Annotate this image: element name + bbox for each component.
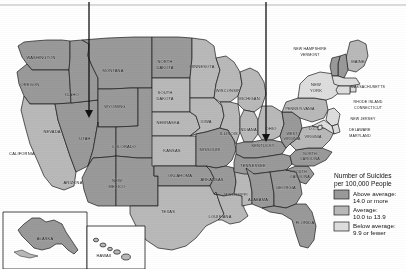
state-label-illinois: ILLINOIS	[220, 131, 238, 136]
state-label-maryland: MARYLAND	[349, 134, 371, 138]
state-label-kansas: KANSAS	[163, 148, 180, 153]
state-label-louisiana: LOUISIANA	[209, 214, 232, 219]
state-label-georgia: GEORGIA	[276, 185, 296, 190]
state-label-alaska: ALASKA	[37, 236, 54, 241]
state-label-carolina: CAROLINA	[300, 157, 320, 161]
state-label-west: WEST	[286, 132, 298, 136]
state-label-north: NORTH	[303, 152, 317, 156]
state-indiana[interactable]	[240, 110, 258, 142]
state-label-idaho: IDAHO	[65, 92, 79, 97]
state-label-montana: MONTANA	[103, 68, 124, 73]
state-label-kentucky: KENTUCKY	[251, 143, 274, 148]
legend-range-average: 10.0 to 13.9	[353, 213, 386, 220]
state-label-maine: MAINE	[351, 59, 365, 64]
state-label-dakota: DAKOTA	[156, 65, 173, 70]
state-label-carolina: CAROLINA	[290, 175, 310, 179]
state-label-new: NEW	[112, 178, 122, 183]
state-label-virginia: VIRGINIA	[283, 137, 301, 141]
state-label-north: NORTH	[157, 59, 172, 64]
state-label-virginia: VIRGINIA	[304, 135, 322, 139]
state-label-wyoming: WYOMING	[104, 104, 125, 109]
state-label-south: SOUTH	[293, 170, 307, 174]
state-label-michigan: MICHIGAN	[238, 96, 259, 101]
state-label-massachusetts: MASSACHUSETTS	[351, 85, 386, 89]
state-label-ohio: OHIO	[266, 126, 277, 131]
legend-range-below: 9.9 or fewer	[353, 229, 386, 236]
map-svg: WASHINGTONOREGONIDAHOMONTANAWYOMINGCALIF…	[0, 0, 406, 269]
state-district-of-columbia[interactable]	[318, 125, 322, 130]
state-label-arkansas: ARKANSAS	[200, 177, 223, 182]
state-label-tennessee: TENNESSEE	[240, 163, 266, 168]
state-label-colorado: COLORADO	[112, 144, 136, 149]
state-label-missouri: MISSOURI	[199, 147, 220, 152]
legend-swatch-average	[334, 206, 349, 215]
state-label-south: SOUTH	[158, 90, 173, 95]
state-label-wisconsin: WISCONSIN	[216, 88, 241, 93]
state-label-dakota: DAKOTA	[156, 96, 173, 101]
hawaii-inset-frame	[87, 226, 145, 269]
state-label-pennsylvania: PENNSYLVANIA	[285, 107, 315, 111]
state-label-iowa: IOWA	[200, 119, 211, 124]
state-label-mississippi: MISSISSIPPI	[224, 193, 247, 197]
state-label-d-c-: D.C.	[309, 127, 317, 131]
state-label-arizona: ARIZONA	[63, 180, 82, 185]
state-label-mexico: MEXICO	[109, 184, 126, 189]
state-label-nebraska: NEBRASKA	[156, 120, 179, 125]
state-label-rhode-island: RHODE ISLAND	[353, 100, 382, 104]
state-label-utah: UTAH	[79, 136, 90, 141]
state-label-hawaii: HAWAII	[96, 253, 111, 258]
state-label-oklahoma: OKLAHOMA	[168, 173, 192, 178]
state-label-delaware: DELAWARE	[349, 128, 371, 132]
state-label-florida: FLORIDA	[296, 220, 315, 225]
state-label-new: NEW	[311, 82, 321, 87]
state-label-nevada: NEVADA	[43, 129, 60, 134]
legend-swatch-above	[334, 190, 349, 199]
state-label-york: YORK	[310, 88, 322, 93]
legend-title-line1: Number of Suicides	[334, 172, 392, 179]
legend-label-below: Below average:	[353, 222, 396, 229]
state-label-indiana: INDIANA	[239, 127, 257, 132]
legend-title-line2: per 100,000 People	[334, 180, 392, 188]
legend-swatch-below	[334, 222, 349, 231]
state-label-texas: TEXAS	[161, 209, 175, 214]
state-label-washington: WASHINGTON	[26, 55, 55, 60]
state-label-minnesota: MINNESOTA	[189, 64, 214, 69]
state-label-oregon: OREGON	[21, 82, 40, 87]
legend-range-above: 14.0 or more	[353, 197, 389, 204]
state-connecticut[interactable]	[336, 86, 350, 94]
legend-label-above: Above average:	[353, 190, 397, 197]
state-label-new-jersey: NEW JERSEY	[350, 117, 376, 121]
state-label-vermont: VERMONT	[300, 53, 320, 57]
legend-label-average: Average:	[353, 206, 378, 213]
state-label-alabama: ALABAMA	[248, 197, 268, 202]
state-label-california: CALIFORNIA	[9, 151, 35, 156]
state-north-dakota[interactable]	[152, 37, 192, 78]
state-label-new-hampshire: NEW HAMPSHIRE	[293, 47, 327, 51]
us-suicide-rate-map: WASHINGTONOREGONIDAHOMONTANAWYOMINGCALIF…	[0, 0, 406, 269]
state-south-dakota[interactable]	[152, 78, 190, 112]
state-label-connecticut: CONNECTICUT	[354, 106, 383, 110]
